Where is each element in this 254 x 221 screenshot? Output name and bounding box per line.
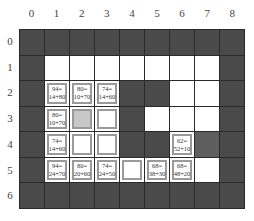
open-cell[interactable] bbox=[170, 81, 194, 106]
column-label: 0 bbox=[19, 7, 44, 19]
g-plus-h: 24+50 bbox=[99, 170, 116, 178]
column-label: 1 bbox=[44, 7, 69, 19]
open-cell[interactable] bbox=[120, 56, 144, 81]
g-plus-h: 10+70 bbox=[74, 93, 91, 101]
open-cell[interactable] bbox=[195, 158, 219, 183]
pathfinding-grid: 94=14+8080=10+7074=14+6080=10+7074=14+60… bbox=[19, 29, 245, 209]
open-cell[interactable] bbox=[45, 56, 69, 81]
wall-cell[interactable] bbox=[20, 158, 44, 183]
scored-node-box: 80=20+60 bbox=[72, 160, 92, 181]
column-label: 2 bbox=[69, 7, 94, 19]
wall-cell[interactable] bbox=[145, 81, 169, 106]
wall-cell[interactable] bbox=[20, 107, 44, 132]
wall-cell[interactable] bbox=[220, 107, 244, 132]
node-cell[interactable]: 80=20+60 bbox=[70, 158, 94, 183]
node-cell[interactable]: 74=24+50 bbox=[95, 158, 119, 183]
column-label: 6 bbox=[170, 7, 195, 19]
column-label: 4 bbox=[119, 7, 144, 19]
scored-node-box: 80=10+70 bbox=[47, 109, 67, 130]
wall-cell[interactable] bbox=[120, 183, 144, 208]
g-plus-h: 10+70 bbox=[49, 119, 66, 127]
node-cell[interactable]: 62=52+10 bbox=[170, 132, 194, 157]
open-cell[interactable] bbox=[195, 81, 219, 106]
f-score: 74= bbox=[102, 85, 112, 93]
wall-cell[interactable] bbox=[45, 183, 69, 208]
column-label: 7 bbox=[195, 7, 220, 19]
node-cell[interactable] bbox=[70, 107, 94, 132]
g-plus-h: 38+30 bbox=[149, 170, 166, 178]
wall-cell[interactable] bbox=[20, 132, 44, 157]
node-cell[interactable] bbox=[95, 107, 119, 132]
node-cell[interactable]: 80=10+70 bbox=[70, 81, 94, 106]
wall-cell[interactable] bbox=[170, 183, 194, 208]
wall-cell[interactable] bbox=[120, 81, 144, 106]
wall-cell[interactable] bbox=[70, 30, 94, 55]
f-score: 80= bbox=[77, 162, 87, 170]
node-cell[interactable]: 94=24+70 bbox=[45, 158, 69, 183]
open-node-box bbox=[122, 160, 142, 181]
wall-cell[interactable] bbox=[195, 30, 219, 55]
wall-cell[interactable] bbox=[70, 183, 94, 208]
wall-cell[interactable] bbox=[120, 132, 144, 157]
f-score: 80= bbox=[77, 85, 87, 93]
wall-cell[interactable] bbox=[20, 30, 44, 55]
gray-cell[interactable] bbox=[195, 132, 219, 157]
row-label: 3 bbox=[4, 112, 16, 124]
node-cell[interactable]: 74=14+60 bbox=[95, 81, 119, 106]
wall-cell[interactable] bbox=[220, 81, 244, 106]
scored-node-box: 74=14+60 bbox=[97, 83, 117, 104]
wall-cell[interactable] bbox=[95, 30, 119, 55]
open-cell[interactable] bbox=[145, 107, 169, 132]
wall-cell[interactable] bbox=[145, 30, 169, 55]
open-cell[interactable] bbox=[170, 107, 194, 132]
open-cell[interactable] bbox=[195, 107, 219, 132]
g-plus-h: 20+60 bbox=[74, 170, 91, 178]
open-cell[interactable] bbox=[145, 56, 169, 81]
f-score: 94= bbox=[52, 85, 62, 93]
wall-cell[interactable] bbox=[170, 30, 194, 55]
open-cell[interactable] bbox=[70, 56, 94, 81]
wall-cell[interactable] bbox=[95, 183, 119, 208]
row-label: 0 bbox=[4, 35, 16, 47]
row-label: 2 bbox=[4, 86, 16, 98]
wall-cell[interactable] bbox=[220, 132, 244, 157]
scored-node-box: 80=10+70 bbox=[72, 83, 92, 104]
wall-cell[interactable] bbox=[145, 183, 169, 208]
open-cell[interactable] bbox=[95, 56, 119, 81]
node-cell[interactable]: 68=38+30 bbox=[145, 158, 169, 183]
node-cell[interactable]: 80=10+70 bbox=[45, 107, 69, 132]
node-cell[interactable]: 68=48+20 bbox=[170, 158, 194, 183]
f-score: 68= bbox=[177, 162, 187, 170]
f-score: 68= bbox=[152, 162, 162, 170]
wall-cell[interactable] bbox=[220, 158, 244, 183]
wall-cell[interactable] bbox=[220, 56, 244, 81]
wall-cell[interactable] bbox=[195, 183, 219, 208]
wall-cell[interactable] bbox=[120, 30, 144, 55]
column-label: 8 bbox=[220, 7, 245, 19]
f-score: 62= bbox=[177, 137, 187, 145]
closed-node-box bbox=[72, 109, 92, 130]
node-cell[interactable] bbox=[70, 132, 94, 157]
f-score: 94= bbox=[52, 162, 62, 170]
wall-cell[interactable] bbox=[20, 81, 44, 106]
g-plus-h: 14+60 bbox=[99, 93, 116, 101]
column-label: 5 bbox=[145, 7, 170, 19]
scored-node-box: 74=14+60 bbox=[47, 134, 67, 155]
wall-cell[interactable] bbox=[220, 30, 244, 55]
wall-cell[interactable] bbox=[20, 56, 44, 81]
open-node-box bbox=[72, 134, 92, 155]
node-cell[interactable]: 74=14+60 bbox=[45, 132, 69, 157]
node-cell[interactable]: 94=14+80 bbox=[45, 81, 69, 106]
f-score: 74= bbox=[52, 137, 62, 145]
node-cell[interactable] bbox=[120, 158, 144, 183]
wall-cell[interactable] bbox=[145, 132, 169, 157]
node-cell[interactable] bbox=[95, 132, 119, 157]
wall-cell[interactable] bbox=[20, 183, 44, 208]
wall-cell[interactable] bbox=[120, 107, 144, 132]
open-cell[interactable] bbox=[195, 56, 219, 81]
row-label: 6 bbox=[4, 189, 16, 201]
wall-cell[interactable] bbox=[220, 183, 244, 208]
wall-cell[interactable] bbox=[45, 30, 69, 55]
f-score: 74= bbox=[102, 162, 112, 170]
open-cell[interactable] bbox=[170, 56, 194, 81]
